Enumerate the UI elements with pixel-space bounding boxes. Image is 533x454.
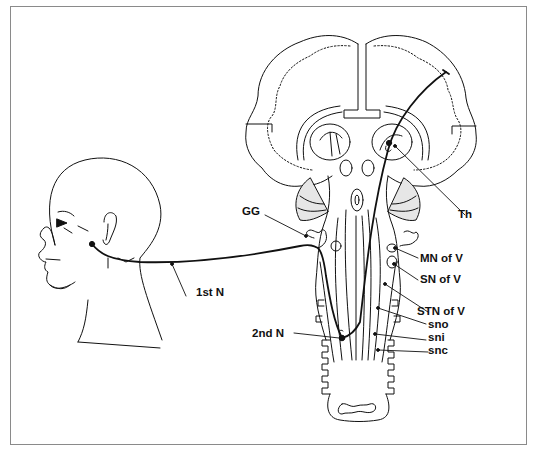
neuro-diagram — [0, 0, 533, 454]
label-thalamus: Th — [458, 208, 472, 220]
label-snc: snc — [428, 344, 448, 356]
peripheral-receptor-dot — [89, 241, 94, 246]
brain-illustration — [246, 36, 477, 422]
label-sni: sni — [428, 331, 445, 343]
leader-dots — [171, 145, 397, 352]
label-second-neuron: 2nd N — [252, 327, 284, 339]
label-sn-of-v: SN of V — [420, 273, 461, 285]
label-first-neuron: 1st N — [196, 286, 224, 298]
label-mn-of-v: MN of V — [420, 252, 463, 264]
label-sno: sno — [428, 318, 448, 330]
label-stn-of-v: STN of V — [417, 305, 465, 317]
label-gg: GG — [242, 205, 260, 217]
second-neuron-dot — [339, 335, 345, 341]
thalamus-neuron-dot — [386, 140, 391, 145]
